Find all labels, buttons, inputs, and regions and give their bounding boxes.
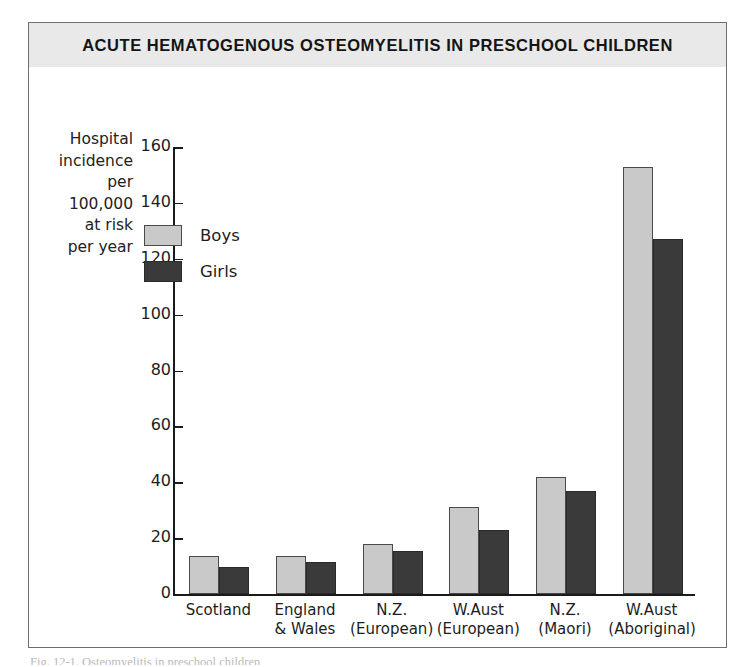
bar-group bbox=[608, 147, 695, 594]
legend-item-girls: Girls bbox=[144, 253, 240, 289]
figure-frame: ACUTE HEMATOGENOUS OSTEOMYELITIS IN PRES… bbox=[28, 22, 727, 648]
plot-area: Hospital incidence per 100,000 at risk p… bbox=[29, 67, 726, 647]
bar-girls bbox=[566, 491, 596, 594]
bar-girls bbox=[479, 530, 509, 594]
chart-title: ACUTE HEMATOGENOUS OSTEOMYELITIS IN PRES… bbox=[82, 36, 673, 55]
bar-girls bbox=[653, 239, 683, 594]
x-category-label: Scotland bbox=[175, 601, 262, 620]
bar-boys bbox=[276, 556, 306, 594]
legend-item-boys: Boys bbox=[144, 217, 240, 253]
bar-group bbox=[348, 147, 435, 594]
figure-caption-partial: Fig. 12-1. Osteomyelitis in preschool ch… bbox=[30, 655, 730, 665]
legend-swatch-girls bbox=[144, 261, 182, 282]
y-tick-label: 100 bbox=[111, 304, 171, 323]
x-axis-category-labels: ScotlandEngland & WalesN.Z. (European)W.… bbox=[175, 601, 695, 655]
y-tick-label: 140 bbox=[111, 192, 171, 211]
x-category-label: N.Z. (Maori) bbox=[522, 601, 609, 639]
bar-girls bbox=[393, 551, 423, 594]
bar-group bbox=[522, 147, 609, 594]
legend-label-girls: Girls bbox=[200, 262, 237, 281]
y-tick-label: 40 bbox=[111, 471, 171, 490]
bar-boys bbox=[363, 544, 393, 594]
legend-swatch-boys bbox=[144, 225, 182, 246]
bar-girls bbox=[219, 567, 249, 594]
y-tick-label: 160 bbox=[111, 136, 171, 155]
bar-group bbox=[262, 147, 349, 594]
x-category-label: W.Aust (European) bbox=[435, 601, 522, 639]
bar-girls bbox=[306, 562, 336, 594]
bar-group bbox=[175, 147, 262, 594]
y-tick-label: 0 bbox=[111, 583, 171, 602]
legend: Boys Girls bbox=[144, 217, 240, 289]
y-tick-mark bbox=[173, 594, 183, 596]
bar-boys bbox=[449, 507, 479, 594]
title-band: ACUTE HEMATOGENOUS OSTEOMYELITIS IN PRES… bbox=[29, 23, 726, 67]
bars-group-container bbox=[175, 147, 695, 594]
bar-boys bbox=[623, 167, 653, 594]
x-axis-line bbox=[173, 594, 695, 596]
x-category-label: England & Wales bbox=[262, 601, 349, 639]
legend-label-boys: Boys bbox=[200, 226, 240, 245]
y-tick-label: 80 bbox=[111, 360, 171, 379]
x-category-label: W.Aust (Aboriginal) bbox=[608, 601, 695, 639]
y-tick-label: 60 bbox=[111, 415, 171, 434]
bar-boys bbox=[189, 556, 219, 594]
bar-boys bbox=[536, 477, 566, 594]
y-tick-label: 20 bbox=[111, 527, 171, 546]
x-category-label: N.Z. (European) bbox=[348, 601, 435, 639]
bar-group bbox=[435, 147, 522, 594]
